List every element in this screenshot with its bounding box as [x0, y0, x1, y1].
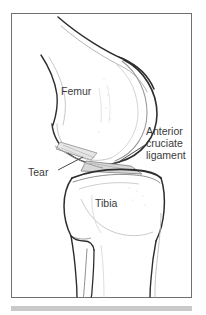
- knee-anatomy-illustration: Femur Anterior cruciate ligament Tear Ti…: [11, 13, 192, 298]
- label-tibia: Tibia: [95, 197, 118, 209]
- label-tear: Tear: [28, 166, 49, 178]
- fibula-bone: [71, 236, 104, 298]
- label-anterior-cruciate-ligament-line3: ligament: [146, 149, 186, 161]
- figure-root: Femur Anterior cruciate ligament Tear Ti…: [0, 0, 206, 315]
- tear-leader-line: [58, 157, 83, 170]
- femur-bone: [41, 17, 157, 165]
- label-anterior-cruciate-ligament-line2: cruciate: [146, 137, 183, 149]
- label-femur: Femur: [61, 85, 92, 97]
- tibia-bone: [64, 169, 164, 298]
- label-anterior-cruciate-ligament-line1: Anterior: [146, 125, 183, 137]
- footer-rule: [11, 306, 192, 311]
